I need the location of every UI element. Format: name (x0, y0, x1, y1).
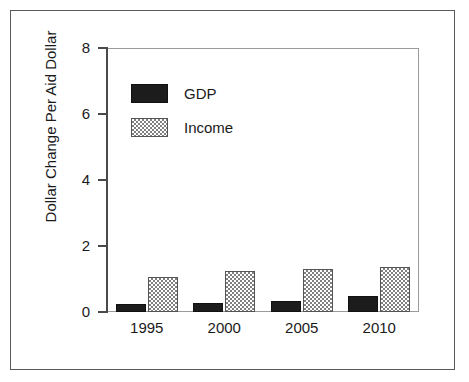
x-axis-tick-label-2005: 2005 (262, 320, 342, 335)
bar-gdp-2010 (348, 296, 378, 312)
bar-gdp-1995 (116, 304, 146, 312)
y-axis-tick-label: 8 (50, 40, 90, 55)
legend-label-income: Income (184, 119, 233, 136)
y-axis-tick-label: 6 (50, 106, 90, 121)
chart-legend: GDP Income (131, 82, 281, 150)
legend-item-gdp: GDP (131, 82, 281, 104)
legend-swatch-gdp-icon (131, 84, 168, 103)
y-axis-tick (98, 113, 107, 115)
y-axis-tick (98, 179, 107, 181)
x-axis-tick-label-2010: 2010 (339, 320, 419, 335)
bar-group-2010 (348, 49, 410, 312)
legend-swatch-income-icon (131, 118, 168, 137)
bar-gdp-2005 (271, 301, 301, 312)
x-axis-tick-label-2000: 2000 (184, 320, 264, 335)
y-axis-tick (98, 311, 107, 313)
bar-income-2010 (380, 267, 410, 312)
y-axis-tick-label: 2 (50, 238, 90, 253)
y-axis-tick-label: 4 (50, 172, 90, 187)
bar-income-2005 (303, 269, 333, 312)
bar-income-1995 (148, 277, 178, 312)
legend-item-income: Income (131, 116, 281, 138)
legend-label-gdp: GDP (184, 85, 217, 102)
x-axis-tick-label-1995: 1995 (107, 320, 187, 335)
bar-income-2000 (225, 271, 255, 312)
y-axis-tick-label: 0 (50, 304, 90, 319)
figure-container: Dollar Change Per Aid Dollar 02468 19952… (0, 0, 469, 382)
bar-gdp-2000 (193, 303, 223, 312)
y-axis-tick (98, 47, 107, 49)
y-axis-tick (98, 245, 107, 247)
